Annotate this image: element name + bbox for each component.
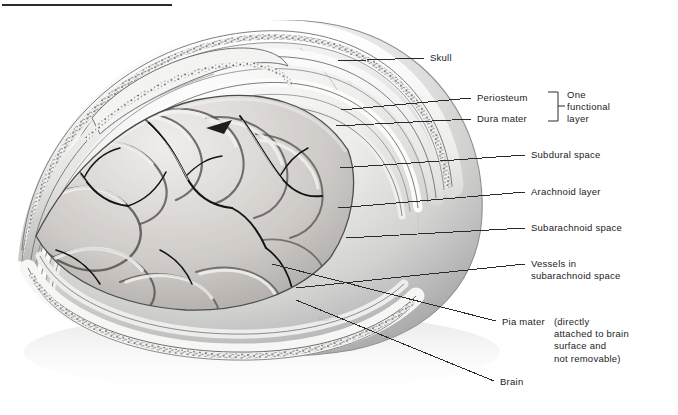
pia-note-line-4: not removable) <box>554 353 629 365</box>
label-pia-mater: Pia mater <box>502 316 545 327</box>
pia-note-line-2: attached to brain <box>554 328 629 340</box>
label-one-functional-layer: One functional layer <box>567 89 610 126</box>
label-subarachnoid-space: Subarachnoid space <box>531 222 622 234</box>
vessels-label-line-1: Vessels in <box>531 258 621 270</box>
label-dura-mater: Dura mater <box>477 113 527 125</box>
one-functional-layer-line-3: layer <box>567 113 610 125</box>
label-skull: Skull <box>430 52 452 64</box>
label-vessels-in-subarachnoid-space: Vessels in subarachnoid space <box>531 258 621 281</box>
label-periosteum: Periosteum <box>477 92 528 104</box>
label-layer: Skull Periosteum Dura mater One function… <box>0 0 678 415</box>
label-arachnoid-layer: Arachnoid layer <box>531 186 601 198</box>
vessels-label-line-2: subarachnoid space <box>531 270 621 282</box>
one-functional-layer-line-2: functional <box>567 101 610 113</box>
figure-page: Nadine Skull Periosteum Dura mater One <box>0 0 678 415</box>
pia-note-line-3: surface and <box>554 340 629 352</box>
label-brain: Brain <box>500 376 523 388</box>
label-pia-mater-group: Pia mater (directly attached to brain su… <box>502 316 629 365</box>
label-subdural-space: Subdural space <box>531 149 601 161</box>
pia-note-line-1: (directly <box>554 316 629 328</box>
pia-mater-note: (directly attached to brain surface and … <box>554 316 629 365</box>
one-functional-layer-line-1: One <box>567 89 610 101</box>
